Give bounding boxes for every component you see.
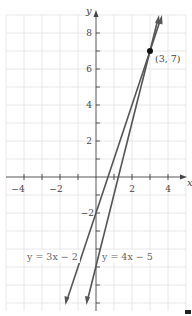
y-tick-label: 4 bbox=[86, 100, 92, 110]
end-mark-icon bbox=[185, 310, 191, 314]
y-tick-label: 2 bbox=[86, 136, 92, 146]
y-tick-label: 8 bbox=[86, 28, 92, 38]
arrow-down-icon bbox=[85, 296, 90, 305]
graph: x y −4 −2 2 4 8 6 4 2 −2 (3, 7) y = 3x −… bbox=[0, 0, 192, 316]
x-tick-label: −2 bbox=[49, 184, 62, 194]
x-tick-label: 4 bbox=[165, 184, 171, 194]
equation-label-1: y = 3x − 2 bbox=[26, 251, 78, 262]
y-axis-arrow-icon bbox=[94, 10, 99, 17]
x-tick-label: −4 bbox=[11, 184, 25, 194]
intersection-label: (3, 7) bbox=[155, 53, 181, 64]
y-tick-label: −2 bbox=[81, 208, 94, 218]
x-axis-label: x bbox=[187, 177, 192, 188]
x-tick-label: 2 bbox=[129, 184, 135, 194]
equation-label-2: y = 4x − 5 bbox=[101, 251, 153, 262]
y-axis-label: y bbox=[85, 5, 92, 16]
arrow-up-icon bbox=[155, 15, 160, 24]
arrow-down-icon bbox=[65, 296, 70, 305]
y-tick-label: 6 bbox=[86, 64, 92, 74]
intersection-point bbox=[147, 48, 153, 54]
